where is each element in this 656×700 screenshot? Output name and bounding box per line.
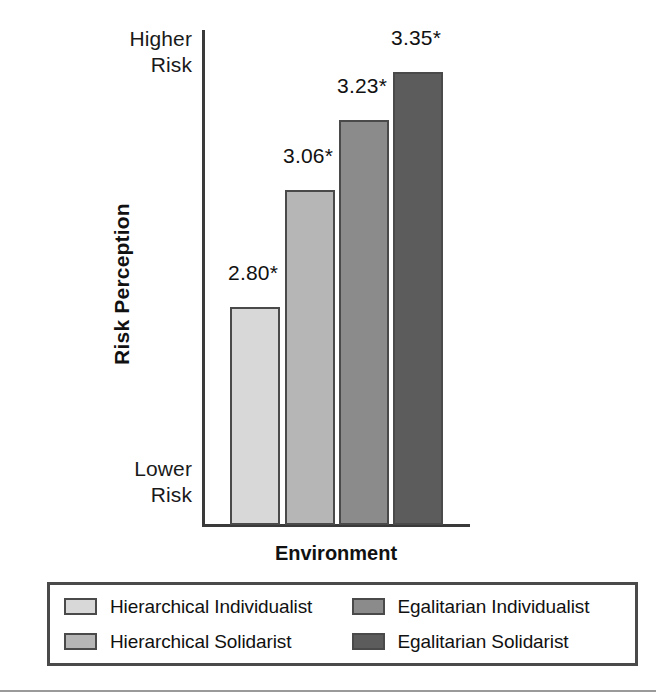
figure-bar-chart: Higher Risk Lower Risk Risk Perception 2… <box>0 0 656 700</box>
legend-label: Hierarchical Individualist <box>110 596 312 618</box>
bar-value-label: 3.06* <box>283 144 333 168</box>
legend-swatch-icon <box>352 598 385 615</box>
legend-label: Egalitarian Individualist <box>398 596 590 618</box>
legend-swatch-icon <box>352 633 385 650</box>
legend-item: Hierarchical Solidarist <box>64 631 348 653</box>
bar-value-label: 3.23* <box>337 74 387 98</box>
bar <box>230 307 280 525</box>
x-axis-title: Environment <box>202 542 470 565</box>
page-bottom-rule <box>0 690 656 692</box>
bar <box>393 72 443 525</box>
legend-item: Egalitarian Solidarist <box>352 631 636 653</box>
legend-label: Hierarchical Solidarist <box>110 631 291 653</box>
legend-item: Egalitarian Individualist <box>352 596 636 618</box>
legend-label: Egalitarian Solidarist <box>398 631 569 653</box>
bar-value-label: 2.80* <box>228 261 278 285</box>
legend-swatch-icon <box>64 598 97 615</box>
bar-value-label: 3.35* <box>391 26 441 50</box>
legend-swatch-icon <box>64 633 97 650</box>
legend-item: Hierarchical Individualist <box>64 596 348 618</box>
legend: Hierarchical IndividualistEgalitarian In… <box>47 582 638 666</box>
bar <box>285 190 335 525</box>
bar <box>339 120 389 525</box>
